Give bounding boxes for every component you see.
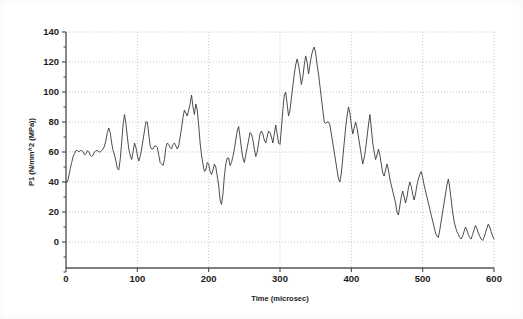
x-tick-label: 300: [272, 273, 288, 284]
y-tick-label: 40: [48, 176, 59, 187]
x-tick-label: 200: [201, 273, 217, 284]
x-tick-label: 100: [129, 273, 145, 284]
y-tick-label: 120: [43, 56, 59, 67]
y-tick-label: 100: [43, 86, 59, 97]
x-tick-label: 500: [415, 273, 431, 284]
chart-figure: 020406080100120140 0100200300400500600 T…: [0, 0, 523, 319]
y-tick-label: 0: [54, 236, 59, 247]
y-axis-title: P1 (N/mm^2 (MPa)): [27, 117, 36, 186]
y-tick-label: 20: [48, 206, 59, 217]
line-chart: 020406080100120140 0100200300400500600 T…: [0, 0, 523, 319]
y-tick-label: 140: [43, 26, 59, 37]
y-axis-tick-labels: 020406080100120140: [43, 26, 59, 247]
y-tick-label: 60: [48, 146, 59, 157]
x-tick-label: 400: [343, 273, 359, 284]
x-tick-label: 600: [486, 273, 502, 284]
x-axis-title: Time (microsec): [251, 294, 309, 303]
y-tick-label: 80: [48, 116, 59, 127]
x-axis-tick-labels: 0100200300400500600: [63, 273, 502, 284]
x-tick-label: 0: [63, 273, 68, 284]
